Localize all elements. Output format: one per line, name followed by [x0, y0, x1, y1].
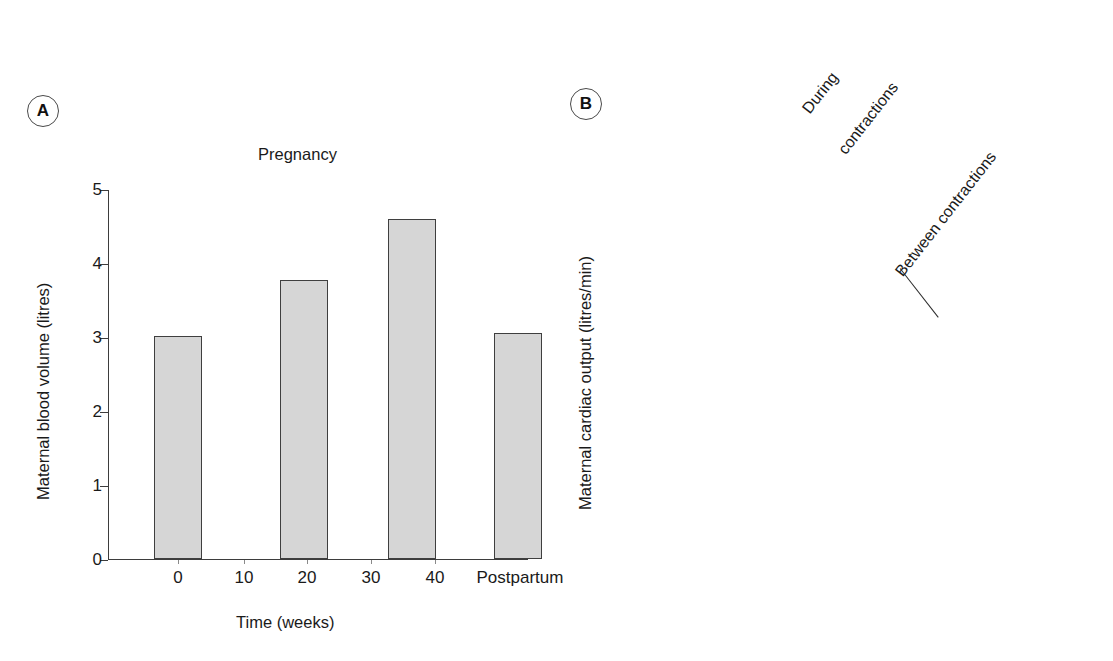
panel-b-annotation-during-line2: contractions: [835, 79, 902, 158]
panel-a-xtick-label-0: 0: [173, 568, 182, 588]
panel-a-bar-week0: [154, 336, 202, 559]
panel-a-ytick-label-5: 5: [93, 180, 102, 200]
panel-a-xtick-10: [244, 560, 245, 564]
panel-a-bar-postpartum: [494, 333, 542, 559]
panel-a-xtick-label-40: 40: [426, 568, 445, 588]
panel-b-annotation-during-line1: During: [799, 69, 842, 117]
panel-b-annotation-between: Between contractions: [892, 148, 1000, 280]
panel-a: A Pregnancy Maternal blood volume (litre…: [0, 0, 556, 661]
panel-a-xtick-30: [371, 560, 372, 564]
panel-a-xtick-40: [435, 560, 436, 564]
figure-container: A Pregnancy Maternal blood volume (litre…: [0, 0, 1113, 661]
panel-a-letter: A: [27, 95, 59, 127]
panel-a-ytick-label-3: 3: [93, 328, 102, 348]
panel-b: B Maternal cardiac output (litres/min) D…: [556, 0, 1113, 661]
panel-b-letter: B: [570, 88, 602, 120]
panel-a-xtick-label-30: 30: [362, 568, 381, 588]
panel-a-xtick-20: [307, 560, 308, 564]
panel-a-bar-week20: [280, 280, 328, 559]
panel-a-y-axis-title: Maternal blood volume (litres): [34, 283, 53, 500]
panel-a-plot-area: 5 4 3 2 1 0: [108, 190, 528, 560]
panel-a-chart-title: Pregnancy: [258, 145, 337, 164]
panel-a-x-axis-title: Time (weeks): [236, 613, 334, 632]
panel-a-xtick-label-10: 10: [235, 568, 254, 588]
panel-a-xtick-label-20: 20: [298, 568, 317, 588]
panel-b-annotation-between-leader: [899, 268, 938, 318]
panel-a-y-axis-line: [108, 190, 109, 560]
panel-a-xtick-0: [178, 560, 179, 564]
panel-a-ytick-label-0: 0: [93, 550, 102, 570]
panel-a-ytick-label-4: 4: [93, 254, 102, 274]
panel-b-y-axis-title: Maternal cardiac output (litres/min): [576, 256, 595, 510]
panel-a-bar-week35: [388, 219, 436, 559]
panel-a-xtick-label-postpartum: Postpartum: [477, 568, 564, 588]
panel-a-ytick-label-1: 1: [93, 476, 102, 496]
panel-a-ytick-label-2: 2: [93, 402, 102, 422]
panel-a-x-axis-line: [108, 559, 528, 560]
